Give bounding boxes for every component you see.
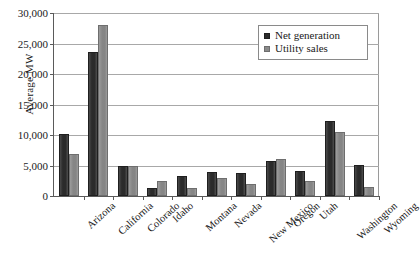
y-tick-label: 20,000: [18, 68, 48, 80]
bar-utility-sales: [217, 178, 227, 196]
bar-group: [236, 13, 256, 196]
bar-utility-sales: [157, 181, 167, 196]
bar-utility-sales: [246, 184, 256, 196]
y-tick-mark: [50, 74, 54, 75]
legend-label: Utility sales: [275, 42, 328, 55]
x-tick-label: Arizona: [84, 200, 116, 231]
y-tick-label: 15,000: [18, 99, 48, 111]
y-tick-mark: [50, 135, 54, 136]
y-tick-label: 5,000: [23, 160, 48, 172]
legend-label: Net generation: [275, 29, 340, 42]
bar-group: [118, 13, 138, 196]
bar-net-generation: [266, 161, 276, 196]
bar-net-generation: [354, 165, 364, 196]
bar-net-generation: [118, 166, 128, 196]
bar-group: [207, 13, 227, 196]
x-tick-label: Montana: [204, 200, 239, 233]
bar-group: [59, 13, 79, 196]
bar-utility-sales: [69, 154, 79, 196]
bar-utility-sales: [276, 159, 286, 196]
x-tick-label: Utah: [317, 200, 340, 222]
bar-utility-sales: [187, 188, 197, 196]
legend-item-utility-sales: Utility sales: [264, 42, 362, 55]
x-tick-mark: [290, 196, 291, 200]
bar-net-generation: [59, 134, 69, 196]
bar-net-generation: [325, 121, 335, 196]
legend-item-net-generation: Net generation: [264, 29, 362, 42]
bar-net-generation: [177, 176, 187, 196]
bar-utility-sales: [98, 25, 108, 196]
y-tick-mark: [50, 196, 54, 197]
bar-utility-sales: [305, 181, 315, 196]
x-tick-mark: [349, 196, 350, 200]
x-tick-mark: [261, 196, 262, 200]
y-tick-mark: [50, 13, 54, 14]
bar-group: [88, 13, 108, 196]
bar-utility-sales: [364, 187, 374, 196]
x-tick-mark: [84, 196, 85, 200]
y-tick-label: 10,000: [18, 129, 48, 141]
y-tick-mark: [50, 105, 54, 106]
bar-group: [147, 13, 167, 196]
bar-net-generation: [207, 172, 217, 196]
bar-utility-sales: [128, 166, 138, 196]
bar-net-generation: [147, 188, 157, 196]
bar-net-generation: [295, 171, 305, 196]
y-tick-label: 25,000: [18, 38, 48, 50]
x-tick-mark: [113, 196, 114, 200]
x-tick-label: Nevada: [232, 200, 263, 230]
bar-group: [177, 13, 197, 196]
y-tick-label: 30,000: [18, 7, 48, 19]
x-tick-mark: [202, 196, 203, 200]
bar-utility-sales: [335, 132, 345, 196]
bar-net-generation: [236, 173, 246, 196]
y-tick-label: 0: [43, 190, 49, 202]
y-tick-mark: [50, 166, 54, 167]
legend-swatch-icon: [264, 33, 270, 39]
x-tick-mark: [320, 196, 321, 200]
x-tick-mark: [379, 196, 380, 200]
bar-net-generation: [88, 52, 98, 196]
y-tick-mark: [50, 44, 54, 45]
chart-legend: Net generation Utility sales: [258, 25, 368, 60]
legend-swatch-icon: [264, 46, 270, 52]
x-tick-mark: [143, 196, 144, 200]
